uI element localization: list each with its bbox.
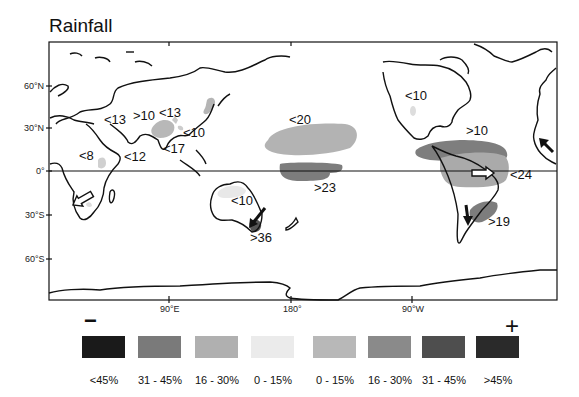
lon-label-180: 180°: [283, 304, 302, 314]
lat-label-60n: 60°N: [24, 81, 44, 91]
legend-swatch-decrease-31-45: [138, 336, 181, 358]
legend-label: 16 - 30%: [187, 374, 247, 386]
annotation-label: <10: [405, 88, 427, 103]
annotation-label: >10: [133, 108, 155, 123]
annotation-label: <17: [163, 141, 185, 156]
legend-label: 31 - 45%: [414, 374, 474, 386]
legend-swatch-increase-gt45: [476, 336, 519, 358]
map-canvas: [0, 0, 579, 330]
legend-label: >45%: [468, 374, 528, 386]
legend-swatch-increase-31-45: [422, 336, 465, 358]
annotation-label: <20: [289, 112, 311, 127]
lat-label-30n: 30°N: [24, 123, 44, 133]
legend-swatch-decrease-16-30: [195, 336, 238, 358]
annotation-label: <10: [231, 193, 253, 208]
annotation-label: <24: [510, 167, 532, 182]
annotation-label: >19: [488, 214, 510, 229]
legend-label: 16 - 30%: [360, 374, 420, 386]
legend-label: <45%: [74, 374, 134, 386]
legend-swatch-decrease-gt45: [82, 336, 125, 358]
annotation-label: >10: [466, 123, 488, 138]
lat-label-30s: 30°S: [25, 210, 45, 220]
legend-swatch-increase-16-30: [368, 336, 411, 358]
annotation-label: <8: [79, 148, 94, 163]
annotation-label: >23: [314, 180, 336, 195]
lat-label-0: 0°: [36, 166, 45, 176]
axis-ticks: [46, 42, 412, 303]
legend-plus-symbol: +: [505, 314, 519, 338]
legend-swatch-increase-0-15: [313, 336, 356, 358]
lon-label-90w: 90°W: [402, 304, 424, 314]
legend-label: 31 - 45%: [130, 374, 190, 386]
legend-label: 0 - 15%: [243, 374, 303, 386]
annotation-label: <12: [124, 149, 146, 164]
legend-label: 0 - 15%: [305, 374, 365, 386]
world-map: 60°N 30°N 0° 30°S 60°S 90°E 180° 90°W <1…: [0, 0, 579, 330]
lat-label-60s: 60°S: [25, 254, 45, 264]
lon-label-90e: 90°E: [160, 304, 180, 314]
annotation-label: <13: [159, 105, 181, 120]
legend-swatch-decrease-0-15: [251, 336, 294, 358]
annotation-label: >36: [250, 230, 272, 245]
annotation-label: <10: [183, 125, 205, 140]
annotation-label: <13: [104, 112, 126, 127]
legend-minus-symbol: −: [84, 310, 97, 332]
